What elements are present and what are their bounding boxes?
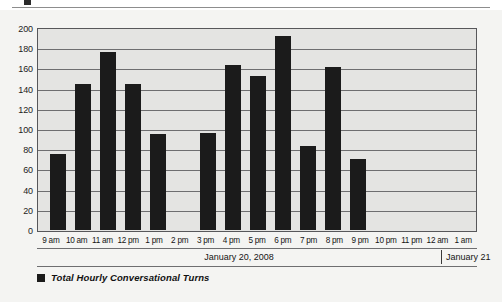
- bar: [75, 84, 91, 230]
- bar: [150, 134, 166, 230]
- x-axis-tick-label: 6 pm: [270, 234, 296, 247]
- x-axis-tick-label: 11 am: [90, 234, 116, 247]
- bar-slot: [170, 30, 195, 230]
- bar-slot: [120, 30, 145, 230]
- bar-series: [39, 30, 475, 230]
- bar-slot: [246, 30, 271, 230]
- bar-slot: [145, 30, 170, 230]
- x-axis-tick-label: 12 am: [424, 234, 450, 247]
- date-band: January 20, 2008 January 21: [37, 248, 477, 267]
- y-axis-tick-label: 100: [0, 125, 33, 135]
- x-axis-tick-label: 1 pm: [141, 234, 167, 247]
- bar-slot: [95, 30, 120, 230]
- x-axis-tick-label: 1 am: [450, 234, 476, 247]
- y-axis-tick-label: 160: [0, 64, 33, 74]
- y-axis: 200180160140120100806040200: [0, 28, 33, 232]
- x-axis-tick-label: 2 pm: [167, 234, 193, 247]
- x-axis-tick-label: 3 pm: [193, 234, 219, 247]
- x-axis-tick-label: 5 pm: [244, 234, 270, 247]
- bar-slot: [195, 30, 220, 230]
- bar-chart-figure: 200180160140120100806040200 9 am10 am11 …: [0, 10, 502, 302]
- y-axis-tick-label: 0: [0, 226, 33, 236]
- date-secondary-label: January 21: [446, 249, 502, 265]
- bar: [50, 154, 66, 230]
- page-top-crop: [0, 0, 502, 10]
- y-axis-tick-label: 20: [0, 206, 33, 216]
- bar: [225, 65, 241, 230]
- y-axis-tick-label: 120: [0, 105, 33, 115]
- y-axis-tick-label: 80: [0, 145, 33, 155]
- bar-slot: [220, 30, 245, 230]
- bar-slot: [396, 30, 421, 230]
- y-axis-tick-label: 180: [0, 44, 33, 54]
- bar: [275, 36, 291, 230]
- x-axis: 9 am10 am11 am12 pm1 pm2 pm3 pm4 pm5 pm6…: [38, 234, 476, 247]
- x-axis-tick-label: 8 pm: [321, 234, 347, 247]
- y-axis-tick-label: 200: [0, 24, 33, 34]
- chart-legend: Total Hourly Conversational Turns: [37, 272, 210, 283]
- bar: [325, 67, 341, 230]
- bar: [125, 84, 141, 230]
- x-axis-tick-label: 7 pm: [296, 234, 322, 247]
- legend-entry-label: Total Hourly Conversational Turns: [51, 272, 210, 283]
- bar-slot: [45, 30, 70, 230]
- bar-slot: [296, 30, 321, 230]
- bar-slot: [321, 30, 346, 230]
- bar: [300, 146, 316, 230]
- bar-slot: [446, 30, 471, 230]
- legend-swatch-icon: [37, 274, 45, 282]
- bar: [350, 159, 366, 230]
- bar: [200, 133, 216, 230]
- y-axis-tick-label: 140: [0, 85, 33, 95]
- x-axis-tick-label: 11 pm: [399, 234, 425, 247]
- bar-slot: [371, 30, 396, 230]
- x-axis-tick-label: 10 pm: [373, 234, 399, 247]
- date-divider: [441, 250, 442, 264]
- x-axis-tick-label: 9 pm: [347, 234, 373, 247]
- date-primary-label: January 20, 2008: [37, 249, 441, 265]
- page-bullet-marker-icon: [24, 0, 31, 5]
- x-axis-tick-label: 4 pm: [218, 234, 244, 247]
- page-horizontal-rule: [12, 7, 490, 8]
- bar-slot: [346, 30, 371, 230]
- x-axis-tick-label: 12 pm: [115, 234, 141, 247]
- bar-slot: [70, 30, 95, 230]
- bar-slot: [271, 30, 296, 230]
- x-axis-tick-label: 10 am: [64, 234, 90, 247]
- y-axis-tick-label: 60: [0, 165, 33, 175]
- bar: [100, 52, 116, 230]
- bar: [250, 76, 266, 230]
- plot-area: [37, 28, 477, 232]
- bar-slot: [421, 30, 446, 230]
- x-axis-tick-label: 9 am: [38, 234, 64, 247]
- y-axis-tick-label: 40: [0, 186, 33, 196]
